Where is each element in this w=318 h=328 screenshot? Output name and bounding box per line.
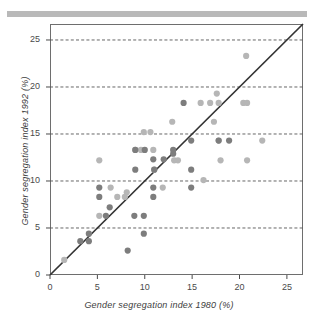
- y-tick-label: 0: [20, 269, 40, 279]
- x-tick-label: 5: [87, 282, 107, 292]
- x-tick-label: 25: [277, 282, 297, 292]
- scatter-markers-dark: [77, 100, 232, 254]
- scatter-plot: [0, 0, 318, 328]
- x-axis-title: Gender segregation index 1980 (%): [0, 300, 318, 310]
- x-tick-label: 10: [135, 282, 155, 292]
- figure-container: 05101520250510152025 Gender segregation …: [0, 0, 318, 328]
- y-axis-title-wrapper: Gender segregation index 1992 (%): [14, 36, 32, 266]
- x-tick-label: 15: [182, 282, 202, 292]
- x-tick-label: 0: [40, 282, 60, 292]
- reference-line-y-equals-x: [50, 24, 303, 275]
- gridlines: [50, 40, 303, 228]
- y-axis-title: Gender segregation index 1992 (%): [20, 76, 30, 225]
- x-tick-label: 20: [230, 282, 250, 292]
